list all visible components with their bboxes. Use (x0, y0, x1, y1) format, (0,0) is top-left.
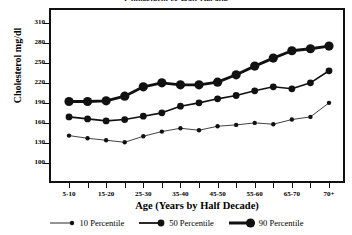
y-axis-tick-label: 190 (23, 99, 45, 106)
y-axis-tick-label: 100 (23, 159, 45, 166)
y-axis-tick-label: 130 (23, 139, 45, 146)
data-point (157, 78, 166, 87)
data-point (271, 122, 275, 126)
data-point (66, 113, 73, 120)
legend-item-p50[interactable]: 50 Percentile (138, 217, 214, 229)
data-point (270, 83, 277, 90)
data-point (288, 85, 295, 92)
data-point (253, 121, 257, 125)
x-axis-tick-mark (273, 183, 274, 188)
data-point (104, 138, 108, 142)
data-point (196, 99, 203, 106)
data-point (177, 103, 184, 110)
data-point (251, 87, 258, 94)
data-point (324, 41, 333, 50)
y-axis-tick-mark (43, 43, 49, 44)
data-point (307, 79, 314, 86)
data-point (123, 140, 127, 144)
x-axis-tick-mark (329, 183, 330, 188)
x-axis-tick-mark (236, 183, 237, 188)
data-point (83, 97, 92, 106)
data-point (250, 62, 259, 71)
x-axis-tick-mark (106, 183, 107, 188)
y-axis-tick-mark (43, 123, 49, 124)
y-axis-tick-mark (43, 103, 49, 104)
data-point (287, 46, 296, 55)
series-50-percentile (66, 67, 333, 124)
series-90-percentile (64, 41, 333, 106)
data-point (67, 133, 71, 137)
data-point (327, 101, 331, 105)
x-axis-tick-mark (255, 183, 256, 188)
data-point (103, 117, 110, 124)
legend-item-p10[interactable]: 10 Percentile (49, 217, 125, 229)
data-point (233, 92, 240, 99)
x-axis-tick-label: 65-70 (272, 190, 312, 198)
legend-swatch-p10 (49, 217, 77, 229)
x-axis-tick-mark (143, 183, 144, 188)
y-axis-tick-label: 250 (23, 59, 45, 66)
legend-label-p50: 50 Percentile (169, 219, 214, 228)
x-axis-tick-mark (292, 183, 293, 188)
data-point (232, 70, 241, 79)
data-point (215, 124, 219, 128)
data-point (102, 96, 111, 105)
data-point (160, 129, 164, 133)
chart-title: Cholesterol vs Half Decade (0, 0, 352, 1)
legend-swatch-p90 (228, 217, 256, 229)
data-point (120, 92, 129, 101)
y-axis-tick-mark (43, 63, 49, 64)
legend-label-p90: 90 Percentile (259, 219, 304, 228)
legend-item-p90[interactable]: 90 Percentile (228, 217, 304, 229)
data-point (85, 136, 89, 140)
chart-figure: Cholesterol vs Half Decade Cholesterol m… (0, 0, 352, 235)
legend-swatch-p50 (138, 217, 166, 229)
x-axis-tick-mark (88, 183, 89, 188)
x-axis-tick-mark (162, 183, 163, 188)
data-point (326, 67, 333, 74)
y-axis-tick-label: 280 (23, 39, 45, 46)
x-axis-tick-label: 25-30 (123, 190, 163, 198)
y-axis-tick-mark (43, 23, 49, 24)
x-axis-tick-mark (218, 183, 219, 188)
y-axis-tick-label: 310 (23, 19, 45, 26)
x-axis-tick-label: 55-60 (235, 190, 275, 198)
y-axis-tick-mark (43, 83, 49, 84)
chart-legend: 10 Percentile 50 Percentile 90 Percentil… (0, 214, 352, 232)
x-axis-tick-mark (69, 183, 70, 188)
data-point (141, 134, 145, 138)
data-point (213, 78, 222, 87)
x-axis-tick-label: 70+ (309, 190, 349, 198)
data-point (121, 116, 128, 123)
data-point (269, 53, 278, 62)
x-axis-title: Age (Years by Half Decade) (49, 200, 345, 212)
series-line (69, 71, 329, 121)
data-point (308, 115, 312, 119)
x-axis-tick-mark (180, 183, 181, 188)
x-axis-tick-mark (125, 183, 126, 188)
data-point (194, 80, 203, 89)
x-axis-tick-mark (310, 183, 311, 188)
data-point (178, 126, 182, 130)
y-axis-tick-label: 220 (23, 79, 45, 86)
data-point (306, 44, 315, 53)
data-point (158, 109, 165, 116)
x-axis-tick-label: 15-20 (86, 190, 126, 198)
plot-series-canvas (49, 8, 345, 183)
x-axis-tick-label: 5-10 (49, 190, 89, 198)
y-axis-tick-label: 160 (23, 119, 45, 126)
x-axis-tick-mark (199, 183, 200, 188)
data-point (176, 80, 185, 89)
y-axis-tick-mark (43, 163, 49, 164)
data-point (214, 95, 221, 102)
data-point (290, 117, 294, 121)
legend-label-p10: 10 Percentile (80, 219, 125, 228)
data-point (64, 97, 73, 106)
data-point (197, 128, 201, 132)
data-point (234, 123, 238, 127)
data-point (139, 82, 148, 91)
y-axis-tick-mark (43, 143, 49, 144)
data-point (84, 115, 91, 122)
y-axis-tick-labels: 100130160190220250280310 (21, 0, 45, 235)
data-point (140, 113, 147, 120)
